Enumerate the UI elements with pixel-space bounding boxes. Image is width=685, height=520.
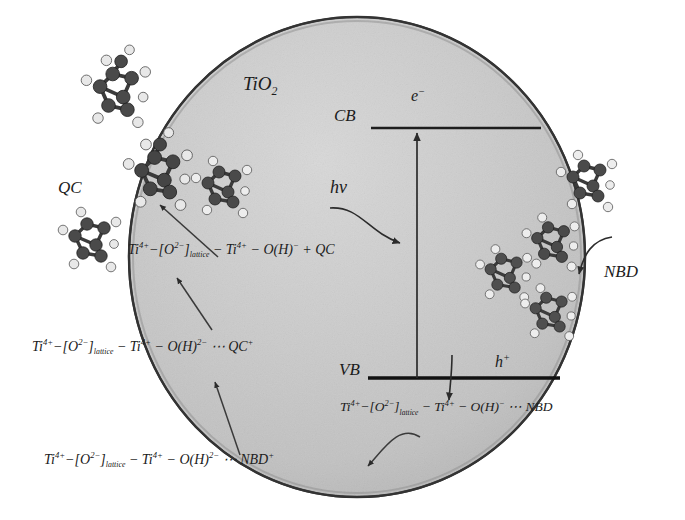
electron-label: e− <box>411 86 425 105</box>
conduction-band-label: CB <box>334 106 356 126</box>
tio2-label: TiO2 <box>243 73 277 99</box>
tio2-label-subscript: 2 <box>272 85 278 98</box>
molecule-qc-free-2 <box>58 207 121 272</box>
hole-charge: + <box>503 352 510 363</box>
tio2-label-text: TiO <box>243 73 272 94</box>
hole-symbol: h <box>495 353 503 370</box>
diagram-canvas: TiO2 CB e− VB h+ hv QC NBD Ti4+−[O2−]lat… <box>0 0 685 520</box>
qc-species-label: QC <box>58 178 82 198</box>
equation-nbd-cation: Ti4+−[O2−]lattice − Ti4+ − O(H)2− ⋯ NBD+ <box>44 450 274 469</box>
equation-qc-cation: Ti4+−[O2−]lattice − Ti4+ − O(H)2− ⋯ QC+ <box>32 337 253 356</box>
equation-nbd-adsorbed: Ti4+−[O2−]lattice − Ti4+ − O(H)− ⋯ NBD <box>340 398 552 417</box>
nbd-species-label: NBD <box>604 262 638 282</box>
valence-band-label: VB <box>339 360 360 380</box>
molecule-qc-free-1 <box>81 45 150 128</box>
hole-label: h+ <box>495 352 510 371</box>
equation-qc-product: Ti4+−[O2−]lattice − Ti4+ − O(H)− + QC <box>128 240 335 259</box>
electron-charge: − <box>418 86 425 97</box>
diagram-graphics <box>0 0 685 520</box>
hv-label: hv <box>330 177 347 198</box>
